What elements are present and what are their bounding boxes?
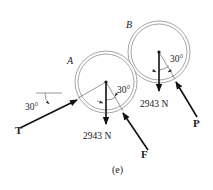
free-body-diagram	[0, 0, 213, 190]
angle-label-b: 30°	[170, 55, 183, 65]
force-label-p: P	[193, 118, 200, 129]
weight-label-a: 2943 N	[83, 132, 111, 142]
label-b: B	[126, 20, 132, 30]
figure-caption: (e)	[112, 165, 123, 175]
force-arrow-f	[123, 113, 148, 150]
angle-label-a: 30°	[117, 86, 130, 96]
force-label-f: F	[141, 149, 148, 160]
weight-label-b: 2943 N	[140, 100, 168, 110]
force-arrow-p	[176, 82, 197, 117]
label-a: A	[67, 56, 73, 66]
force-label-t: T	[15, 125, 22, 136]
angle-arc-t	[45, 93, 49, 104]
angle-label-t: 30°	[25, 103, 38, 113]
